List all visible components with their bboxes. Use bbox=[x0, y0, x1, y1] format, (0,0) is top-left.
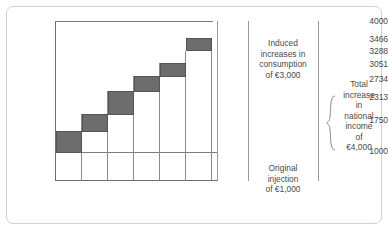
note-original-line-3: of €1,000 bbox=[249, 184, 317, 195]
note-induced-consumption: Induced increases in consumption of €3,0… bbox=[249, 38, 317, 80]
x-axis-line bbox=[55, 180, 217, 181]
y-axis-tick-3466: 3466 bbox=[336, 35, 388, 44]
note-total-line-3: in bbox=[336, 100, 382, 111]
annotation-divider-total-left bbox=[318, 21, 319, 181]
note-original-injection: Original injection of €1,000 bbox=[249, 163, 317, 195]
step-block-3 bbox=[108, 91, 134, 115]
multiplier-staircase-figure: 4000 3466 3288 3051 2734 2313 1750 1000 bbox=[0, 0, 388, 230]
step-block-4 bbox=[134, 76, 160, 92]
total-increase-brace-icon bbox=[326, 95, 336, 151]
note-total-line-4: national bbox=[336, 111, 382, 122]
note-total-line-6: of bbox=[336, 132, 382, 143]
step-block-1 bbox=[56, 131, 82, 153]
note-total-increase: Total increase in national income of €4,… bbox=[336, 79, 382, 153]
note-original-line-1: Original bbox=[249, 163, 317, 174]
note-total-line-1: Total bbox=[336, 79, 382, 90]
note-induced-line-2: increases in bbox=[249, 49, 317, 60]
step-block-5 bbox=[160, 63, 186, 77]
step-block-6 bbox=[186, 38, 212, 51]
y-axis-line bbox=[55, 21, 56, 181]
note-induced-line-4: of €3,000 bbox=[249, 70, 317, 81]
note-induced-line-3: consumption bbox=[249, 59, 317, 70]
note-total-line-5: income bbox=[336, 121, 382, 132]
reference-line-4000 bbox=[55, 21, 213, 22]
y-axis-tick-3051: 3051 bbox=[336, 60, 388, 69]
note-total-line-2: increase bbox=[336, 90, 382, 101]
note-original-line-2: injection bbox=[249, 174, 317, 185]
annotation-divider-chart-edge bbox=[217, 21, 218, 181]
step-block-2 bbox=[82, 114, 108, 132]
note-total-line-7: €4,000 bbox=[336, 142, 382, 153]
y-axis-tick-4000: 4000 bbox=[336, 17, 388, 26]
column-separator-6 bbox=[211, 38, 212, 181]
note-induced-line-1: Induced bbox=[249, 38, 317, 49]
y-axis-tick-3288: 3288 bbox=[336, 47, 388, 56]
